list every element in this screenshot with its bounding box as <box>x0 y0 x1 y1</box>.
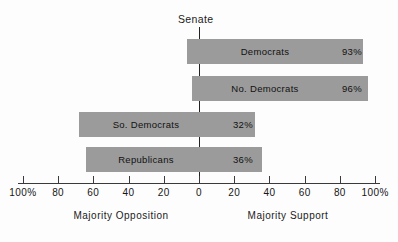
axis-tick <box>340 176 341 183</box>
bar-value-label: 93% <box>342 47 362 57</box>
bar-label: Democrats <box>241 47 290 57</box>
axis-tick <box>199 176 200 183</box>
axis-tick-label: 0 <box>196 188 202 198</box>
axis-tick-label: 100% <box>362 188 389 198</box>
bar-value-label: 36% <box>233 155 253 165</box>
bar-value-label: 32% <box>233 120 253 130</box>
axis-tick <box>58 176 59 183</box>
bar-label: No. Democrats <box>231 84 298 94</box>
bar-value-label: 96% <box>342 84 362 94</box>
bar-label: Republicans <box>118 155 174 165</box>
plot-area: Senate Democrats93%No. Democrats96%So. D… <box>0 0 398 242</box>
caption-majority-opposition: Majority Opposition <box>73 211 168 221</box>
axis-tick-label: 40 <box>123 188 135 198</box>
x-axis-line <box>18 183 380 184</box>
axis-tick <box>23 176 24 183</box>
axis-tick-label: 20 <box>228 188 240 198</box>
axis-tick <box>269 176 270 183</box>
axis-tick <box>93 176 94 183</box>
axis-tick <box>164 176 165 183</box>
axis-tick <box>234 176 235 183</box>
caption-majority-support: Majority Support <box>248 211 329 221</box>
bar-label: So. Democrats <box>113 120 180 130</box>
axis-tick <box>129 176 130 183</box>
axis-tick-label: 60 <box>299 188 311 198</box>
chart-title-senate: Senate <box>178 13 213 25</box>
axis-tick-label: 80 <box>334 188 346 198</box>
axis-tick <box>305 176 306 183</box>
axis-tick-label: 20 <box>158 188 170 198</box>
axis-tick-label: 100% <box>9 188 36 198</box>
axis-tick <box>375 176 376 183</box>
axis-tick-label: 80 <box>52 188 64 198</box>
senate-support-bar-chart: Senate Democrats93%No. Democrats96%So. D… <box>0 0 398 242</box>
axis-tick-label: 40 <box>263 188 275 198</box>
axis-tick-label: 60 <box>87 188 99 198</box>
